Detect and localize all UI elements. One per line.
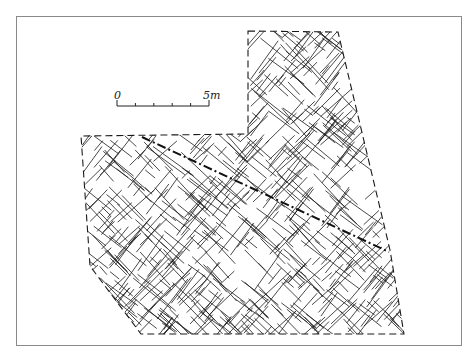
fracture-line — [305, 109, 313, 115]
fracture-line — [152, 170, 171, 192]
fracture-line — [209, 288, 237, 315]
fracture-line — [201, 155, 207, 163]
fracture-line — [364, 276, 376, 290]
fracture-line — [213, 279, 245, 303]
scale-bar — [117, 100, 209, 106]
fracture-line — [102, 221, 113, 234]
fracture-line — [267, 26, 283, 37]
fracture-line — [134, 184, 152, 202]
fracture-line — [251, 70, 264, 85]
fracture-line — [315, 30, 332, 48]
fracture-line — [303, 39, 324, 68]
fracture-line — [150, 248, 161, 261]
fracture-line — [89, 190, 107, 209]
fracture-line — [209, 291, 220, 300]
fracture-line — [246, 239, 257, 248]
fracture-line — [242, 281, 268, 301]
fracture-line — [160, 308, 191, 334]
fracture-line — [125, 136, 136, 147]
fracture-line — [269, 145, 285, 166]
fracture-line — [95, 141, 103, 150]
fracture-line — [247, 77, 267, 95]
fracture-line — [107, 195, 120, 205]
fracture-line — [206, 176, 233, 211]
fracture-line — [259, 263, 266, 270]
fracture-line — [290, 33, 301, 41]
fracture-line — [373, 218, 394, 238]
fracture-line — [363, 245, 390, 272]
fracture-line — [390, 319, 399, 327]
fracture-line — [301, 241, 326, 260]
fracture-line — [241, 300, 252, 311]
fracture-line — [377, 291, 402, 322]
fracture-line — [320, 53, 339, 73]
scale-end-label: 5m — [203, 89, 220, 102]
fracture-line — [221, 271, 234, 283]
fracture-line — [218, 147, 226, 156]
fracture-line — [288, 82, 299, 94]
fracture-line — [296, 119, 320, 143]
fracture-line — [337, 156, 353, 171]
fracture-line — [276, 79, 302, 104]
fracture-line — [218, 178, 247, 204]
fracture-line — [340, 215, 361, 231]
fracture-line — [315, 27, 331, 44]
fracture-line — [251, 112, 269, 136]
fracture-line — [290, 255, 302, 268]
fracture-line — [97, 216, 111, 231]
fracture-line — [167, 126, 203, 152]
fracture-line — [365, 191, 374, 199]
fracture-line — [75, 181, 111, 210]
fracture-line — [134, 298, 171, 329]
fracture-line — [349, 268, 377, 301]
fracture-line — [293, 102, 315, 123]
fracture-line — [177, 295, 205, 324]
fracture-line — [242, 326, 252, 336]
fracture-line — [292, 74, 313, 95]
fracture-line — [151, 257, 159, 265]
fracture-line — [83, 147, 102, 174]
fracture-line — [219, 324, 237, 339]
fracture-line — [220, 317, 248, 341]
fracture-line — [393, 298, 400, 307]
fracture-line — [227, 188, 244, 205]
fracture-line — [111, 141, 132, 157]
fault-line — [142, 137, 389, 252]
fracture-line — [239, 106, 265, 137]
fracture-line — [190, 302, 211, 324]
fracture-line — [316, 49, 345, 84]
fracture-line — [192, 288, 205, 302]
fracture-line — [144, 142, 172, 170]
fracture-line — [190, 194, 226, 226]
fracture-line — [295, 294, 317, 319]
fracture-line — [110, 272, 119, 279]
fracture-line — [118, 191, 154, 222]
fracture-line — [325, 54, 347, 83]
fracture-line — [314, 301, 346, 330]
fracture-line — [129, 219, 150, 245]
fracture-line — [286, 100, 304, 120]
fracture-line — [322, 273, 332, 281]
fracture-line — [155, 188, 184, 219]
fracture-line — [338, 208, 363, 230]
scale-start-label: 0 — [114, 89, 121, 102]
fracture-line — [100, 267, 107, 275]
fracture-line — [140, 320, 152, 332]
fracture-line — [321, 60, 348, 95]
fracture-line — [269, 60, 295, 91]
fracture-line — [190, 237, 206, 252]
fracture-line — [95, 136, 119, 153]
fracture-line — [170, 309, 178, 317]
fracture-line — [259, 47, 280, 72]
fracture-line — [247, 297, 263, 311]
fracture-line — [228, 204, 250, 222]
fracture-line — [116, 237, 136, 264]
fracture-line — [246, 27, 268, 51]
fracture-line — [242, 119, 257, 133]
fracture-line — [74, 128, 99, 156]
fracture-line — [93, 236, 124, 270]
fracture-line — [273, 212, 278, 218]
fracture-line — [125, 281, 150, 307]
fracture-line — [285, 30, 293, 37]
fracture-line — [313, 257, 320, 264]
